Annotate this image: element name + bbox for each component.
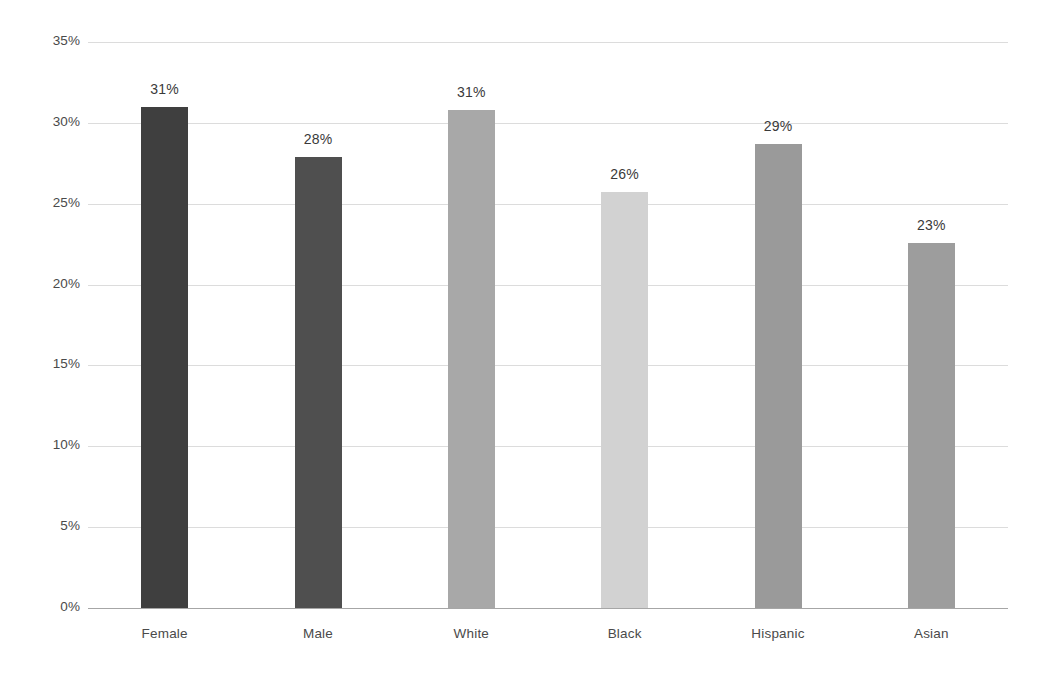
x-axis-category-label: Hispanic bbox=[718, 626, 838, 641]
bar-value-label: 31% bbox=[125, 81, 205, 97]
gridline bbox=[88, 285, 1008, 286]
bar-value-label: 23% bbox=[891, 217, 971, 233]
gridline bbox=[88, 42, 1008, 43]
y-axis-tick-label: 15% bbox=[36, 356, 80, 371]
y-axis-tick-label: 20% bbox=[36, 276, 80, 291]
x-axis-category-label: Asian bbox=[871, 626, 991, 641]
x-axis-category-label: White bbox=[411, 626, 531, 641]
bar-chart: 35%30%25%20%15%10%5%0% 31%28%31%26%29%23… bbox=[0, 0, 1045, 677]
bar bbox=[295, 157, 342, 608]
bar bbox=[601, 192, 648, 608]
x-axis-category-label: Male bbox=[258, 626, 378, 641]
y-axis-tick-label: 5% bbox=[36, 518, 80, 533]
y-axis-tick-label: 30% bbox=[36, 114, 80, 129]
x-axis-category-label: Female bbox=[105, 626, 225, 641]
bar-value-label: 26% bbox=[585, 166, 665, 182]
gridline bbox=[88, 446, 1008, 447]
y-axis-tick-label: 35% bbox=[36, 33, 80, 48]
gridline bbox=[88, 608, 1008, 609]
x-axis-category-label: Black bbox=[565, 626, 685, 641]
y-axis-tick-label: 10% bbox=[36, 437, 80, 452]
plot-area bbox=[88, 42, 1008, 608]
y-axis-tick-label: 0% bbox=[36, 599, 80, 614]
gridline bbox=[88, 527, 1008, 528]
gridline bbox=[88, 365, 1008, 366]
gridline bbox=[88, 123, 1008, 124]
gridline bbox=[88, 204, 1008, 205]
bar-value-label: 28% bbox=[278, 131, 358, 147]
bar bbox=[755, 144, 802, 608]
bar-value-label: 29% bbox=[738, 118, 818, 134]
y-axis-tick-label: 25% bbox=[36, 195, 80, 210]
bar bbox=[908, 243, 955, 608]
bar bbox=[448, 110, 495, 608]
bar bbox=[141, 107, 188, 608]
bar-value-label: 31% bbox=[431, 84, 511, 100]
